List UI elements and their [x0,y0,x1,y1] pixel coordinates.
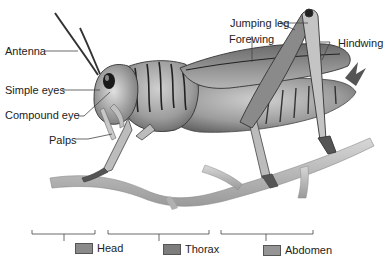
label-forewing: Forewing [229,33,274,45]
label-hindwing: Hindwing [338,37,383,49]
label-palps: Palps [49,134,77,146]
legend-thorax-label: Thorax [185,243,219,255]
label-simple-eyes: Simple eyes [5,84,65,96]
head-swatch [75,243,93,254]
legend-head: Head [75,242,123,254]
label-antenna: Antenna [5,45,46,57]
legend-abdomen: Abdomen [263,244,332,256]
legend-head-label: Head [97,242,123,254]
grasshopper-diagram: Antenna Simple eyes Compound eye Palps J… [0,0,385,259]
abdomen-swatch [263,245,281,256]
thorax-swatch [163,244,181,255]
legend-thorax: Thorax [163,243,219,255]
label-compound-eye: Compound eye [5,109,80,121]
legend-abdomen-label: Abdomen [285,244,332,256]
leader-lines [0,0,385,259]
label-jumping-leg: Jumping leg [230,17,289,29]
